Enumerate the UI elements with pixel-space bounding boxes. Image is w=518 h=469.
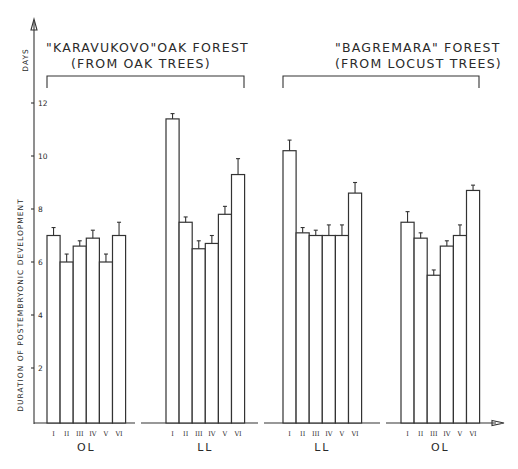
bar [349,193,362,423]
bar [440,246,453,423]
panel-title-line2: (FROM OAK TREES) [71,56,211,71]
y-tick-label: 8 [38,205,43,214]
y-axis-title: DURATION OF POSTEMBRYONIC DEVELOPMENT [16,198,25,412]
bar-group-ll: IIIIIIIVVVILL [283,140,362,454]
bar [401,222,414,423]
bar [205,243,218,423]
category-label: I [171,430,174,438]
category-label: II [64,430,70,438]
category-label: IV [89,430,97,438]
bar [296,233,309,423]
category-label: I [288,430,291,438]
group-label: LL [314,441,330,454]
bar [322,236,335,424]
bar [414,238,427,423]
category-label: II [300,430,306,438]
category-label: VI [350,430,359,438]
bar [166,119,179,423]
bar [467,190,480,423]
category-label: III [312,430,320,438]
bar-group-ol: IIIIIIIVVVIOL [401,185,480,454]
bar [179,222,192,423]
bar-group-ol: IIIIIIIVVVIOL [47,222,126,454]
category-label: II [418,430,424,438]
bar [335,236,348,424]
bar [73,246,86,423]
bar [283,151,296,423]
y-axis: DAYS DURATION OF POSTEMBRYONIC DEVELOPME… [16,19,48,424]
bar [453,236,466,424]
panel-title-line2: (FROM LOCUST TREES) [335,56,502,71]
y-tick-label: 12 [38,99,48,108]
group-label: OL [77,441,96,454]
category-label: IV [443,430,451,438]
category-label: V [103,430,109,438]
group-label: LL [197,441,213,454]
bar [86,238,99,423]
bar [99,262,112,423]
category-label: IV [208,430,216,438]
panel-bagremara-forest-header: "BAGREMARA" FOREST (FROM LOCUST TREES) [283,40,502,88]
category-label: VI [114,430,123,438]
category-label: III [76,430,84,438]
group-label: OL [431,441,450,454]
category-label: V [457,430,463,438]
y-tick-label: 10 [38,152,48,161]
bar-chart: DAYS DURATION OF POSTEMBRYONIC DEVELOPME… [0,0,518,469]
panel-oak-forest-header: "KARAVUKOVO"OAK FOREST (FROM OAK TREES) [46,40,249,88]
category-label: I [406,430,409,438]
category-label: I [52,430,55,438]
category-label: II [183,430,189,438]
category-label: V [339,430,345,438]
y-tick-label: 4 [38,311,43,320]
bar [427,275,440,423]
category-label: VI [468,430,477,438]
panel-title-line1: "BAGREMARA" FOREST [335,40,501,55]
category-label: IV [325,430,333,438]
category-label: III [430,430,438,438]
bar [309,236,322,424]
bar [192,249,205,423]
bar [47,236,60,424]
bar [113,236,126,424]
panel-bracket [47,76,244,88]
panel-title-line1: "KARAVUKOVO"OAK FOREST [46,40,249,55]
y-tick-label: 2 [38,364,43,373]
bar [218,214,231,423]
y-tick-label: 6 [38,258,43,267]
category-label: III [195,430,203,438]
y-unit-label: DAYS [21,48,30,72]
category-label: VI [233,430,242,438]
category-label: V [222,430,228,438]
bar-groups: IIIIIIIVVVIOLIIIIIIIVVVILLIIIIIIIVVVILLI… [47,114,480,454]
bar [232,175,245,423]
bar [60,262,73,423]
bar-group-ll: IIIIIIIVVVILL [166,114,245,454]
panel-bracket [283,76,479,88]
